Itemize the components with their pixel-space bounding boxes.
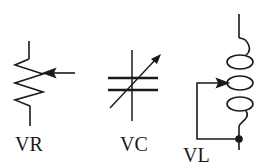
tap-line <box>197 83 239 139</box>
variable-resistor-symbol <box>15 41 75 126</box>
variable-inductor-symbol <box>197 14 253 150</box>
label-vr: VR <box>15 134 43 154</box>
variable-capacitor-symbol <box>108 50 161 121</box>
junction-dot <box>236 136 242 142</box>
diagram-canvas: VR VC VL <box>0 0 267 166</box>
label-vl: VL <box>183 145 210 165</box>
label-vc: VC <box>120 134 148 154</box>
tap-arrow-icon <box>217 79 228 87</box>
wiper-arrow-icon <box>44 69 55 77</box>
